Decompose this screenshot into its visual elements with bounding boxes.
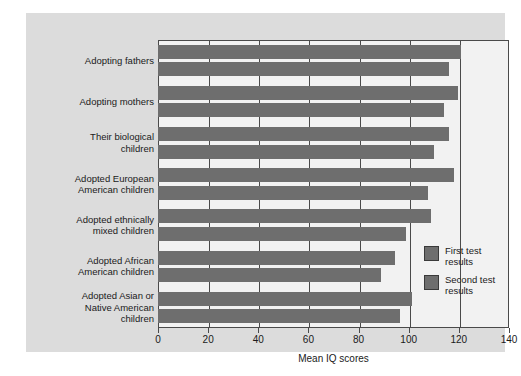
- category-label-line: mixed children: [56, 225, 154, 237]
- x-tick-label: 20: [203, 334, 214, 345]
- category-label-line: Adopting fathers: [56, 55, 154, 67]
- category-label: Adopted AfricanAmerican children: [56, 255, 154, 278]
- category-label-line: Adopted African: [56, 255, 154, 267]
- category-label-line: Adopting mothers: [56, 96, 154, 108]
- category-label: Adopted Asian orNative Americanchildren: [56, 290, 154, 325]
- x-tick-label: 100: [400, 334, 417, 345]
- x-tick-mark: [158, 328, 159, 333]
- x-axis: 020406080100120140: [158, 328, 509, 348]
- bar: [158, 62, 449, 76]
- category-label-line: children: [56, 313, 154, 325]
- legend-item: Second testresults: [424, 275, 520, 296]
- category-label: Their biologicalchildren: [56, 131, 154, 154]
- category-label-line: children: [56, 143, 154, 155]
- bar: [158, 292, 412, 306]
- bar: [158, 103, 444, 117]
- x-tick-mark: [509, 328, 510, 333]
- legend-label-line: First test: [445, 246, 481, 257]
- legend-label: Second testresults: [445, 275, 495, 296]
- x-axis-title: Mean IQ scores: [158, 353, 509, 364]
- bar: [158, 145, 434, 159]
- bar: [158, 168, 454, 182]
- bar: [158, 309, 400, 323]
- bar: [158, 86, 458, 100]
- category-label-line: American children: [56, 184, 154, 196]
- x-tick-label: 60: [303, 334, 314, 345]
- bar: [158, 45, 461, 59]
- x-tick-mark: [409, 328, 410, 333]
- bar: [158, 186, 428, 200]
- x-tick-mark: [208, 328, 209, 333]
- legend-label-line: Second test: [445, 275, 495, 286]
- legend-label-line: results: [445, 257, 481, 268]
- category-label-line: Adopted ethnically: [56, 214, 154, 226]
- x-tick-label: 120: [451, 334, 468, 345]
- x-tick-mark: [308, 328, 309, 333]
- category-label-line: Adopted Asian or: [56, 290, 154, 302]
- category-label-line: Native American: [56, 302, 154, 314]
- legend-item: First testresults: [424, 246, 520, 267]
- bar: [158, 209, 431, 223]
- bar: [158, 268, 381, 282]
- category-label-line: Their biological: [56, 131, 154, 143]
- category-label: Adopting fathers: [56, 55, 154, 67]
- chart-screenshot: Adopting fathersAdopting mothersTheir bi…: [0, 0, 521, 376]
- legend-swatch: [424, 246, 439, 261]
- category-label: Adopting mothers: [56, 96, 154, 108]
- legend-label: First testresults: [445, 246, 481, 267]
- bar: [158, 127, 449, 141]
- chart-legend: First testresultsSecond testresults: [424, 246, 520, 304]
- x-tick-mark: [258, 328, 259, 333]
- x-tick-mark: [459, 328, 460, 333]
- bar: [158, 251, 395, 265]
- x-tick-label: 140: [501, 334, 518, 345]
- x-tick-label: 40: [253, 334, 264, 345]
- bar: [158, 227, 406, 241]
- x-tick-label: 0: [155, 334, 161, 345]
- legend-label-line: results: [445, 286, 495, 297]
- x-tick-label: 80: [353, 334, 364, 345]
- category-axis-labels: Adopting fathersAdopting mothersTheir bi…: [56, 40, 154, 328]
- figure-panel: Adopting fathersAdopting mothersTheir bi…: [26, 13, 505, 352]
- category-label: Adopted EuropeanAmerican children: [56, 173, 154, 196]
- category-label: Adopted ethnicallymixed children: [56, 214, 154, 237]
- legend-swatch: [424, 275, 439, 290]
- category-label-line: Adopted European: [56, 173, 154, 185]
- category-label-line: American children: [56, 266, 154, 278]
- x-tick-mark: [359, 328, 360, 333]
